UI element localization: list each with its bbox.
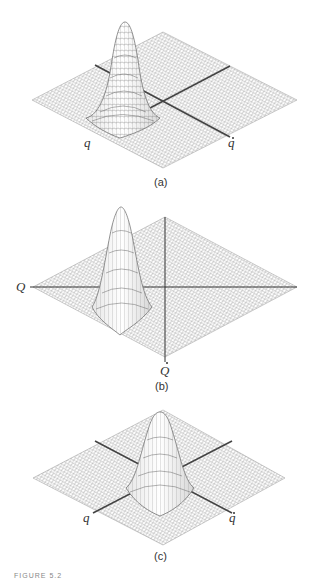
- dot-accent: [166, 362, 168, 364]
- axis-label-q: q: [83, 510, 90, 526]
- axis-label-q: q: [84, 135, 91, 151]
- gaussian-surface-plot-c: [0, 400, 319, 570]
- panel-c: q q (c): [0, 400, 319, 570]
- panel-label-b: (b): [155, 380, 168, 392]
- figure-caption: FIGURE 5.2: [14, 572, 62, 578]
- panel-a: q q (a): [0, 0, 319, 195]
- axis-label-Q: Q: [16, 279, 25, 295]
- gaussian-surface-plot-a: [0, 0, 319, 195]
- panel-b: Q Q: [0, 195, 319, 390]
- panel-label-a: (a): [154, 176, 167, 188]
- panel-label-c: (c): [154, 550, 167, 562]
- axis-label-Q-dot: Q: [160, 363, 169, 379]
- dot-accent: [232, 137, 234, 139]
- dot-accent: [233, 512, 235, 514]
- gaussian-surface-plot-b: [0, 195, 319, 390]
